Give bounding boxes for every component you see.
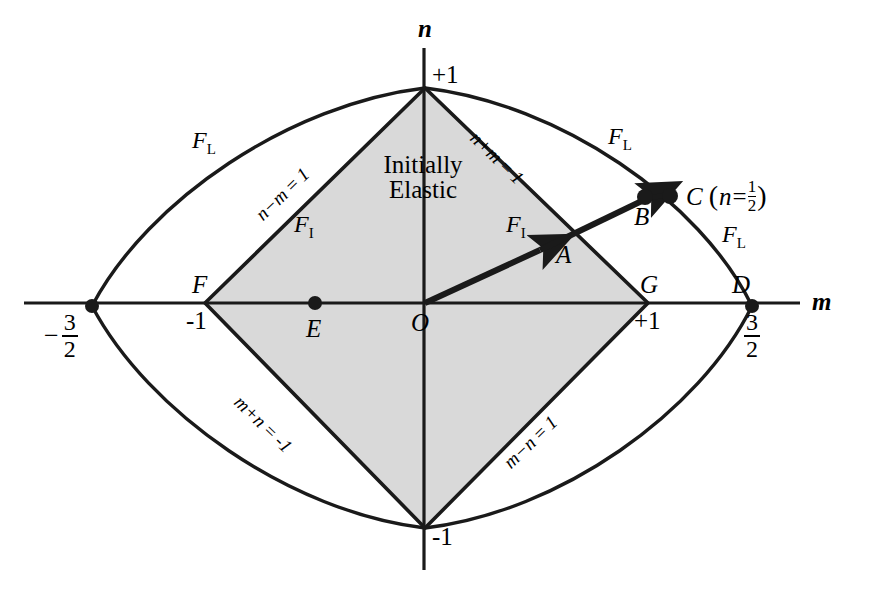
paren-open: (	[709, 182, 718, 210]
fl-sub: L	[623, 137, 632, 153]
fl-sub: L	[737, 235, 746, 251]
fi-label-left: FI	[294, 212, 314, 241]
point-label-O: O	[411, 310, 429, 335]
tick-m-minus-three-halves: − 3 2	[44, 310, 78, 362]
fl-base: F	[722, 221, 737, 247]
tick-m-plus-one: +1	[634, 308, 661, 333]
c-annotation-equals: =	[733, 184, 747, 209]
initially-elastic-line1: Initially	[352, 152, 494, 177]
fi-sub: I	[309, 225, 314, 241]
tick-m-minus-one: -1	[186, 308, 207, 333]
tick-m-three-halves: 3 2	[744, 310, 760, 362]
fl-label-top-right: FL	[608, 124, 632, 153]
fi-label-right: FI	[506, 212, 526, 241]
fraction-three-halves-right: 3 2	[744, 310, 760, 362]
point-label-B: B	[634, 204, 649, 229]
paren-close: )	[757, 182, 766, 210]
fl-base: F	[608, 123, 623, 149]
point-label-D: D	[732, 272, 750, 297]
point-label-E: E	[306, 316, 321, 341]
tick-n-minus-one: -1	[432, 524, 453, 549]
point-label-C-annotated: C ( n = 1 2 )	[686, 178, 766, 215]
point-label-G: G	[640, 272, 658, 297]
initially-elastic-line2: Elastic	[352, 177, 494, 202]
diagram-svg	[0, 0, 874, 607]
c-annotation-variable: n	[719, 184, 732, 209]
point-label-F: F	[192, 272, 207, 297]
point-dot-E	[308, 296, 322, 310]
point-dot-C	[662, 188, 678, 204]
point-label-C: C	[686, 184, 703, 209]
fi-base: F	[506, 211, 521, 237]
fl-label-top-left: FL	[192, 128, 216, 157]
minus-sign: −	[44, 323, 62, 349]
fi-sub: I	[521, 225, 526, 241]
m-axis-label: m	[812, 289, 831, 314]
figure-canvas: n m +1 -1 -1 +1 − 3 2 3 2 Initially Elas…	[0, 0, 874, 607]
point-dot-minus-three-halves	[85, 299, 99, 313]
fl-label-right: FL	[722, 222, 746, 251]
c-annotation-fraction: 1 2	[748, 178, 757, 215]
n-axis-label: n	[418, 16, 432, 41]
fl-sub: L	[207, 141, 216, 157]
point-label-A: A	[556, 242, 571, 267]
fl-base: F	[192, 127, 207, 153]
fi-base: F	[294, 211, 309, 237]
fraction-three-halves-left: 3 2	[62, 310, 78, 362]
initially-elastic-label: Initially Elastic	[352, 152, 494, 202]
tick-n-plus-one: +1	[432, 62, 459, 87]
